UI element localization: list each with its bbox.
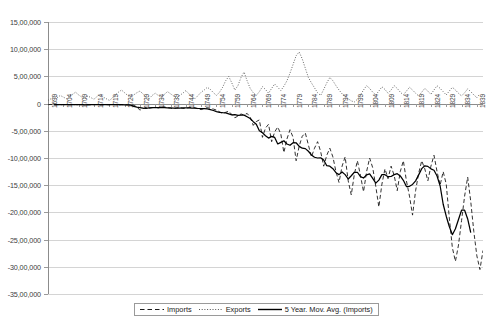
legend-swatch-solid-icon — [258, 306, 282, 313]
legend-item-5-year-mov-avg-imports[interactable]: 5 Year. Mov. Avg. (Imports) — [258, 306, 373, 313]
legend-item-imports[interactable]: Imports — [140, 306, 192, 313]
legend-swatch-dotted-icon — [199, 306, 223, 313]
chart-legend: ImportsExports5 Year. Mov. Avg. (Imports… — [134, 303, 379, 316]
legend-item-exports[interactable]: Exports — [199, 306, 251, 313]
legend-label: Imports — [167, 306, 192, 313]
series-line-5-year-mov-avg-imports — [54, 105, 471, 235]
legend-label: Exports — [226, 306, 251, 313]
series-line-imports — [48, 104, 483, 269]
trade-balance-chart: 15,00,00010,00,0005,00,0000-5,00,000-10,… — [0, 0, 497, 326]
legend-label: 5 Year. Mov. Avg. (Imports) — [285, 306, 373, 313]
series-line-exports — [48, 52, 480, 102]
legend-swatch-dashed-icon — [140, 306, 164, 313]
series-layer — [0, 0, 497, 326]
